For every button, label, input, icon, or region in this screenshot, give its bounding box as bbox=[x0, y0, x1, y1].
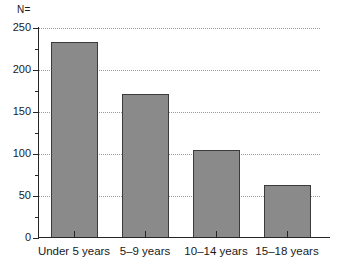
x-axis-tick bbox=[74, 231, 75, 238]
gridline bbox=[39, 28, 320, 29]
x-axis-tick bbox=[216, 231, 217, 238]
y-axis-minor-tick bbox=[35, 175, 39, 176]
y-axis-tick-label: 250 bbox=[3, 22, 31, 33]
bar bbox=[122, 94, 169, 238]
y-axis-tick-label: 200 bbox=[3, 64, 31, 75]
y-axis-minor-tick bbox=[35, 91, 39, 92]
y-axis-tick bbox=[33, 28, 39, 29]
plot-area bbox=[39, 28, 320, 238]
y-axis-labels-group: 050100150200250 bbox=[0, 0, 31, 274]
y-axis-tick bbox=[33, 70, 39, 71]
x-axis-category-label: 15–18 years bbox=[244, 245, 330, 258]
y-axis-tick-label: 100 bbox=[3, 148, 31, 159]
bar bbox=[193, 150, 240, 238]
bar bbox=[51, 42, 98, 238]
x-axis-tick bbox=[145, 231, 146, 238]
y-axis-tick bbox=[33, 154, 39, 155]
y-axis-minor-tick bbox=[35, 133, 39, 134]
y-axis-tick bbox=[33, 112, 39, 113]
y-axis-tick bbox=[33, 238, 39, 239]
y-axis-minor-tick bbox=[35, 217, 39, 218]
y-axis-tick-label: 50 bbox=[3, 190, 31, 201]
x-axis-tick bbox=[287, 231, 288, 238]
y-axis-tick bbox=[33, 196, 39, 197]
bar-chart: N= 050100150200250 Under 5 years5–9 year… bbox=[0, 0, 337, 274]
y-axis-minor-tick bbox=[35, 49, 39, 50]
y-axis-tick-label: 150 bbox=[3, 106, 31, 117]
y-axis-tick-label: 0 bbox=[3, 232, 31, 243]
